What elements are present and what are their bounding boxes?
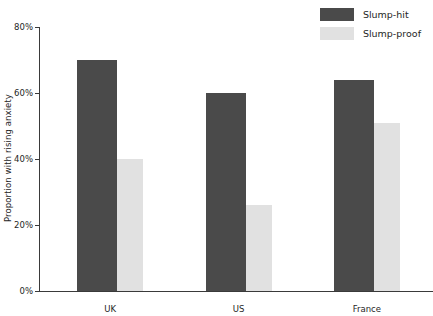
y-axis-tick bbox=[35, 291, 39, 292]
plot-inner: 0%20%40%60%80% UKUSFrance Slump-hitSlump… bbox=[40, 27, 425, 291]
legend-label: Slump-hit bbox=[363, 9, 409, 20]
x-axis-tick-label-us: US bbox=[179, 304, 299, 314]
legend-swatch-icon bbox=[320, 27, 354, 40]
y-axis-tick bbox=[35, 225, 39, 226]
legend-swatch-icon bbox=[320, 8, 354, 21]
bar-group: US bbox=[206, 27, 272, 291]
legend-item-slump-proof[interactable]: Slump-proof bbox=[320, 27, 421, 40]
x-axis-tick-label-uk: UK bbox=[50, 304, 170, 314]
y-axis-tick-label: 0% bbox=[20, 286, 34, 296]
bar-chart-figure: Proportion with rising anxiety 0%20%40%6… bbox=[0, 0, 433, 316]
y-axis-tick-label: 40% bbox=[14, 154, 33, 164]
bar-slump-hit-france[interactable] bbox=[334, 80, 374, 291]
y-axis-tick-label: 80% bbox=[14, 22, 33, 32]
bar-slump-proof-us[interactable] bbox=[246, 205, 272, 291]
bar-group: France bbox=[334, 27, 400, 291]
y-axis-tick-label: 20% bbox=[14, 220, 33, 230]
y-axis-tick bbox=[35, 159, 39, 160]
plot-area: 0%20%40%60%80% UKUSFrance Slump-hitSlump… bbox=[40, 27, 425, 291]
bar-slump-hit-us[interactable] bbox=[206, 93, 246, 291]
chart-legend: Slump-hitSlump-proof bbox=[320, 8, 421, 40]
legend-label: Slump-proof bbox=[363, 28, 421, 39]
y-axis-tick bbox=[35, 27, 39, 28]
y-axis-spine bbox=[39, 27, 40, 291]
y-axis-tick bbox=[35, 93, 39, 94]
y-axis-tick-label: 60% bbox=[14, 88, 33, 98]
bar-slump-proof-uk[interactable] bbox=[117, 159, 143, 291]
legend-item-slump-hit[interactable]: Slump-hit bbox=[320, 8, 421, 21]
x-axis-tick-label-france: France bbox=[307, 304, 427, 314]
bar-slump-proof-france[interactable] bbox=[374, 123, 400, 291]
bar-group: UK bbox=[77, 27, 143, 291]
bar-slump-hit-uk[interactable] bbox=[77, 60, 117, 291]
